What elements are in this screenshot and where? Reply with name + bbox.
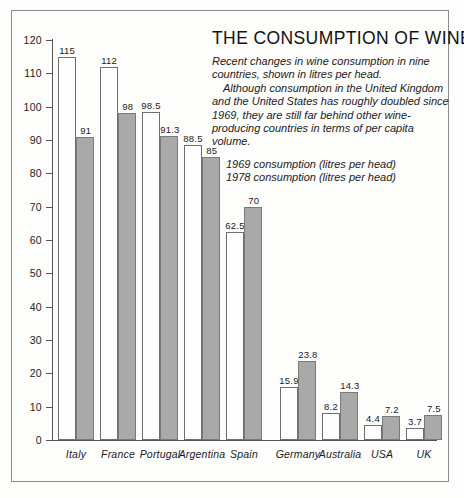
bar-1969: 4.4 xyxy=(364,425,382,440)
bar-group: 98.591.3 xyxy=(142,38,178,440)
legend-item: 1978 consumption (litres per head) xyxy=(226,171,450,184)
chart-legend: 1969 consumption (litres per head)1978 c… xyxy=(212,158,450,185)
x-axis-category-label: France xyxy=(101,448,135,460)
y-axis-tick-mark xyxy=(46,207,53,208)
y-axis-tick-label: 50 xyxy=(12,267,42,279)
y-axis-tick-mark xyxy=(46,173,53,174)
x-axis-category-label: Portugal xyxy=(140,448,181,460)
page-title: THE CONSUMPTION OF WINE xyxy=(212,28,450,49)
y-axis-tick-mark xyxy=(46,440,53,441)
bar-value-label: 112 xyxy=(101,55,117,66)
description-line: 1969, they are still far behind other wi… xyxy=(212,109,450,122)
x-axis-category-label: Argentina xyxy=(179,448,226,460)
bar-1969: 15.9 xyxy=(280,387,298,440)
bar-group: 11591 xyxy=(58,38,94,440)
bar-value-label: 91 xyxy=(80,125,91,136)
bar-1969: 8.2 xyxy=(322,413,340,440)
bar-value-label: 98.5 xyxy=(141,100,160,111)
y-axis-tick-label: 90 xyxy=(12,134,42,146)
y-axis-tick-mark xyxy=(46,273,53,274)
bar-1969: 115 xyxy=(58,57,76,440)
x-axis-category-label: Australia xyxy=(319,448,362,460)
bar-1978: 7.5 xyxy=(424,415,442,440)
y-axis-tick-label: 30 xyxy=(12,334,42,346)
chart-text-block: THE CONSUMPTION OF WINE Recent changes i… xyxy=(212,28,450,185)
y-axis-tick-label: 20 xyxy=(12,367,42,379)
y-axis-tick-mark xyxy=(46,140,53,141)
x-axis-category-label: UK xyxy=(417,448,432,460)
description-line: Recent changes in wine consumption in ni… xyxy=(212,55,450,68)
x-axis-line xyxy=(52,440,437,441)
y-axis-tick-mark xyxy=(46,373,53,374)
bar-value-label: 115 xyxy=(59,45,75,56)
bar-1978: 7.2 xyxy=(382,416,400,440)
y-axis-tick-label: 10 xyxy=(12,401,42,413)
y-axis-tick-mark xyxy=(46,107,53,108)
y-axis-tick-label: 120 xyxy=(12,34,42,46)
bar-value-label: 14.3 xyxy=(340,380,359,391)
bar-1969: 98.5 xyxy=(142,112,160,440)
wine-consumption-figure: 1201101009080706050403020100 11591112989… xyxy=(0,0,464,498)
bar-value-label: 7.2 xyxy=(385,404,399,415)
x-axis-category-label: Spain xyxy=(230,448,258,460)
y-axis-tick-label: 40 xyxy=(12,301,42,313)
y-axis-tick-mark xyxy=(46,40,53,41)
bar-1978: 85 xyxy=(202,157,220,440)
x-axis-category-label: Germany xyxy=(276,448,321,460)
bar-1969: 62.5 xyxy=(226,232,244,440)
y-axis-tick-mark xyxy=(46,73,53,74)
bar-1969: 88.5 xyxy=(184,145,202,440)
y-axis-tick-mark xyxy=(46,340,53,341)
legend-item: 1969 consumption (litres per head) xyxy=(226,158,450,171)
bar-1978: 91.3 xyxy=(160,136,178,440)
y-axis-tick-label: 60 xyxy=(12,234,42,246)
bar-value-label: 70 xyxy=(248,195,259,206)
bar-1978: 23.8 xyxy=(298,361,316,440)
bar-1978: 98 xyxy=(118,113,136,440)
bar-value-label: 4.4 xyxy=(366,413,380,424)
y-axis-tick-label: 100 xyxy=(12,101,42,113)
y-axis-tick-label: 80 xyxy=(12,167,42,179)
y-axis-tick-label: 110 xyxy=(12,67,42,79)
bar-value-label: 15.9 xyxy=(279,375,298,386)
x-axis-category-label: Italy xyxy=(66,448,86,460)
bar-value-label: 23.8 xyxy=(298,349,317,360)
bar-value-label: 88.5 xyxy=(183,133,202,144)
bar-1978: 14.3 xyxy=(340,392,358,440)
description-line: countries, shown in litres per head. xyxy=(212,68,450,81)
y-axis-tick-label: 70 xyxy=(12,201,42,213)
bar-1969: 3.7 xyxy=(406,428,424,440)
y-axis-tick-mark xyxy=(46,307,53,308)
bar-value-label: 8.2 xyxy=(324,401,338,412)
bar-value-label: 3.7 xyxy=(408,416,422,427)
description-line: and the United States has roughly double… xyxy=(212,95,450,108)
bar-1978: 70 xyxy=(244,207,262,440)
bar-value-label: 91.3 xyxy=(160,124,179,135)
bar-value-label: 7.5 xyxy=(427,403,441,414)
bar-1969: 112 xyxy=(100,67,118,440)
description-line: producing countries in terms of per capi… xyxy=(212,122,450,149)
bar-1978: 91 xyxy=(76,137,94,440)
bar-value-label: 98 xyxy=(122,101,133,112)
chart-description: Recent changes in wine consumption in ni… xyxy=(212,55,450,149)
bar-group: 11298 xyxy=(100,38,136,440)
x-axis-category-label: USA xyxy=(371,448,393,460)
y-axis-tick-mark xyxy=(46,407,53,408)
y-axis-tick-label: 0 xyxy=(12,434,42,446)
description-line: Although consumption in the United Kingd… xyxy=(212,82,450,95)
bar-value-label: 62.5 xyxy=(225,220,244,231)
y-axis-tick-mark xyxy=(46,240,53,241)
